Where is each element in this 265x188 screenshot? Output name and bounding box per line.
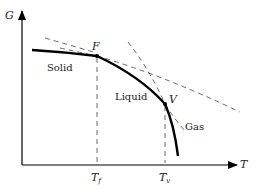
solid-phase-label: Solid bbox=[47, 63, 73, 73]
vapor-temp-tick-label: Tv bbox=[159, 172, 170, 185]
liquid-extension-dashed-right bbox=[165, 104, 186, 132]
liquid-phase-label: Liquid bbox=[115, 92, 147, 102]
fusion-point bbox=[95, 54, 99, 58]
solid-curve bbox=[32, 50, 97, 56]
vapor-temp-sub: v bbox=[166, 177, 170, 185]
fusion-point-label: F bbox=[92, 41, 100, 52]
fusion-temp-tick-label: Tf bbox=[91, 172, 101, 185]
x-axis-label: T bbox=[240, 159, 247, 170]
gas-curve bbox=[165, 104, 178, 156]
vaporization-point bbox=[163, 102, 167, 106]
y-axis-label: G bbox=[5, 10, 14, 21]
gas-phase-label: Gas bbox=[185, 122, 204, 132]
vaporization-point-label: V bbox=[169, 94, 177, 105]
fusion-temp-sub: f bbox=[98, 177, 101, 185]
